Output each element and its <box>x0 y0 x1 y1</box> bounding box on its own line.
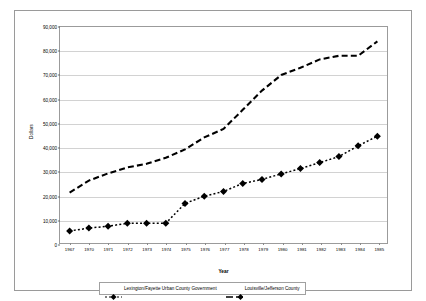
x-tick-label: 1979 <box>258 247 268 252</box>
x-tick-label: 1983 <box>336 247 346 252</box>
series-marker-0 <box>258 176 265 183</box>
y-tick-label: 50,000 <box>43 121 57 126</box>
x-tick-mark <box>147 243 148 245</box>
y-tick-label: 0 <box>54 243 57 248</box>
y-tick-mark <box>58 245 60 246</box>
x-tick-label: 1977 <box>220 247 230 252</box>
x-tick-label: 1981 <box>297 247 307 252</box>
x-tick-mark <box>263 243 264 245</box>
x-tick-label: 1980 <box>278 247 288 252</box>
series-marker-0 <box>239 180 246 187</box>
x-tick-mark <box>225 243 226 245</box>
legend-swatch-icon <box>226 286 243 292</box>
y-tick-label: 70,000 <box>43 73 57 78</box>
legend-label: Louisville/Jefferson County <box>245 286 300 291</box>
x-tick-label: 1985 <box>374 247 384 252</box>
x-tick-mark <box>321 243 322 245</box>
series-marker-0 <box>201 193 208 200</box>
x-tick-label: 1970 <box>84 247 94 252</box>
series-marker-0 <box>355 142 362 149</box>
x-tick-label: 1975 <box>181 247 191 252</box>
x-tick-label: 1973 <box>142 247 152 252</box>
legend-swatch-icon <box>105 286 122 292</box>
x-tick-mark <box>108 243 109 245</box>
x-tick-label: 1976 <box>200 247 210 252</box>
x-tick-label: 1978 <box>239 247 249 252</box>
y-tick-label: 30,000 <box>43 170 57 175</box>
x-tick-label: 1984 <box>355 247 365 252</box>
x-tick-mark <box>128 243 129 245</box>
chart-legend: Lexington/Fayette Urban County Governmen… <box>99 282 306 295</box>
series-marker-0 <box>316 159 323 166</box>
x-tick-mark <box>283 243 284 245</box>
x-tick-mark <box>360 243 361 245</box>
series-marker-0 <box>374 133 381 140</box>
legend-entry-0: Lexington/Fayette Urban County Governmen… <box>105 286 217 292</box>
series-marker-0 <box>182 200 189 207</box>
x-tick-label: 1971 <box>103 247 113 252</box>
x-tick-mark <box>186 243 187 245</box>
series-marker-0 <box>278 170 285 177</box>
series-marker-0 <box>66 227 73 234</box>
x-axis-title: Year <box>59 269 388 274</box>
y-tick-label: 80,000 <box>43 49 57 54</box>
series-marker-0 <box>297 165 304 172</box>
x-tick-mark <box>205 243 206 245</box>
x-tick-mark <box>302 243 303 245</box>
y-tick-label: 90,000 <box>43 25 57 30</box>
series-marker-0 <box>220 188 227 195</box>
legend-entry-1: Louisville/Jefferson County <box>226 286 300 292</box>
y-tick-label: 40,000 <box>43 146 57 151</box>
y-tick-label: 20,000 <box>43 194 57 199</box>
series-marker-0 <box>335 153 342 160</box>
series-marker-0 <box>124 220 131 227</box>
y-tick-label: 60,000 <box>43 97 57 102</box>
plot-area: 010,00020,00030,00040,00050,00060,00070,… <box>59 26 388 244</box>
y-tick-label: 10,000 <box>43 218 57 223</box>
x-tick-mark <box>89 243 90 245</box>
x-tick-mark <box>166 243 167 245</box>
series-layer <box>60 27 387 243</box>
series-marker-0 <box>105 223 112 230</box>
series-marker-0 <box>162 220 169 227</box>
x-tick-mark <box>244 243 245 245</box>
series-line-0 <box>70 136 378 231</box>
x-tick-label: 1974 <box>162 247 172 252</box>
series-line-1 <box>70 41 378 192</box>
series-marker-0 <box>85 225 92 232</box>
x-tick-mark <box>379 243 380 245</box>
x-tick-label: 1982 <box>316 247 326 252</box>
chart-figure: Dollars 010,00020,00030,00040,00050,0006… <box>14 10 412 291</box>
series-marker-0 <box>143 220 150 227</box>
x-tick-label: 1972 <box>123 247 133 252</box>
x-tick-label: 1967 <box>65 247 75 252</box>
y-axis-title: Dollars <box>29 102 34 162</box>
x-tick-mark <box>70 243 71 245</box>
x-tick-mark <box>341 243 342 245</box>
legend-label: Lexington/Fayette Urban County Governmen… <box>124 286 217 291</box>
